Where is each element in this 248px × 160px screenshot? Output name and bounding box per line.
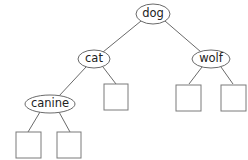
tree-diagram: dog cat wolf canine [0,0,248,160]
tree-node-canine: canine [25,95,75,113]
edge-canine-leaf-right [59,112,70,132]
empty-leaf-canine-right [57,132,81,158]
empty-leaf-wolf-left [176,85,201,111]
empty-leaf-wolf-right [221,85,246,111]
edge-cat-canine [59,67,86,96]
edge-wolf-leaf-left [189,67,202,84]
edge-dog-cat [103,21,141,52]
node-label-dog: dog [142,6,164,20]
edge-canine-leaf-left [28,112,40,132]
edge-wolf-leaf-right [221,67,233,84]
tree-node-dog: dog [136,4,170,24]
tree-edges [28,21,233,132]
empty-leaf-cat-right [104,84,128,110]
node-label-cat: cat [85,51,103,65]
edge-cat-leaf [103,67,116,84]
tree-node-wolf: wolf [192,50,230,68]
empty-leaf-canine-left [16,132,41,158]
node-label-canine: canine [31,96,69,110]
edge-dog-wolf [165,21,201,52]
tree-node-cat: cat [78,50,110,68]
node-label-wolf: wolf [199,51,224,65]
